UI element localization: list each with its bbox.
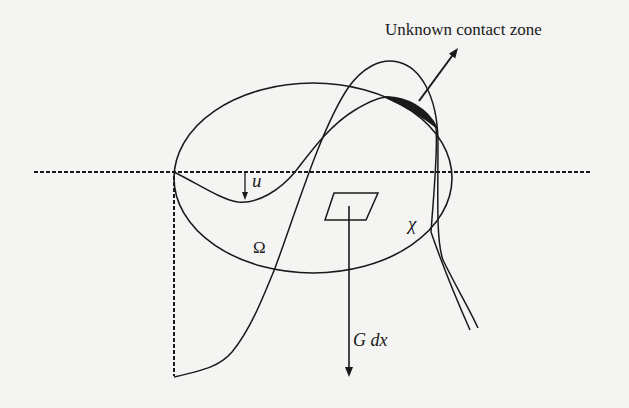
domain-ellipse (174, 83, 452, 273)
displacement-label: u (252, 170, 262, 192)
contact-zone-pointer-arrow (419, 52, 455, 101)
deformed-body-curve (174, 97, 470, 330)
contact-zone-label: Unknown contact zone (385, 20, 542, 40)
obstacle-label: χ (408, 213, 416, 235)
force-label: G dx (353, 330, 388, 351)
domain-label: Ω (253, 238, 266, 258)
contact-zone-region (385, 97, 437, 128)
area-element-parallelogram (325, 193, 378, 220)
contact-problem-diagram (0, 0, 629, 408)
